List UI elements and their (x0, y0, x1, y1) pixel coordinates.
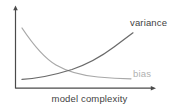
bias-variance-tradeoff-chart: variance bias model complexity (0, 0, 179, 111)
variance-series-label: variance (130, 17, 167, 28)
x-axis-arrow-icon (151, 86, 156, 91)
x-axis-title: model complexity (0, 93, 179, 104)
y-axis-arrow-icon (13, 6, 18, 11)
bias-series-label: bias (133, 68, 151, 79)
variance-curve (22, 33, 133, 80)
bias-curve (22, 28, 131, 79)
